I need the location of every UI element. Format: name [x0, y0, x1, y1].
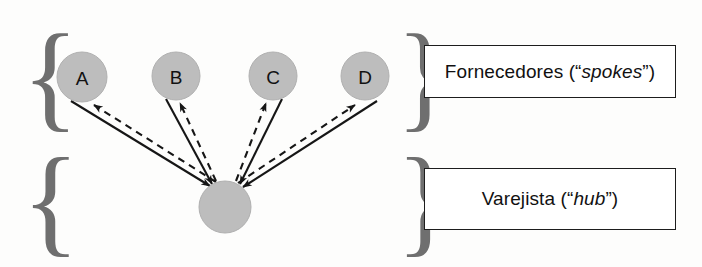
label-hub-italic: hub [573, 188, 605, 209]
node-c[interactable]: C [249, 52, 297, 100]
edge-hub-to-b [180, 103, 216, 181]
brace-left-spokes: { [22, 18, 79, 136]
node-c-label: C [266, 67, 280, 88]
node-hub[interactable] [199, 181, 251, 233]
label-spokes-text: Fornecedores (“spokes”) [445, 61, 655, 83]
label-hub-suffix: ”) [605, 188, 618, 209]
edge-group-c [236, 99, 282, 184]
node-d-label: D [358, 67, 372, 88]
node-d[interactable]: D [341, 52, 389, 100]
label-hub-prefix: Varejista (“ [482, 188, 574, 209]
label-box-spokes: Fornecedores (“spokes”) [424, 45, 676, 98]
label-spokes-prefix: Fornecedores (“ [445, 61, 582, 82]
node-b-label: B [170, 67, 183, 88]
node-b[interactable]: B [152, 52, 200, 100]
brace-left-hub: { [22, 141, 80, 261]
edge-c-to-hub [240, 99, 282, 184]
edge-group-b [166, 99, 216, 184]
diagram-canvas: A B C D { } { } Fornecedores (“spokes”) … [0, 0, 702, 267]
label-hub-text: Varejista (“hub”) [482, 188, 619, 210]
edge-d-to-hub [243, 101, 377, 187]
label-box-hub: Varejista (“hub”) [424, 168, 676, 230]
label-spokes-italic: spokes [582, 61, 643, 82]
edge-hub-to-d [238, 105, 355, 183]
label-spokes-suffix: ”) [642, 61, 655, 82]
edge-b-to-hub [166, 99, 212, 184]
node-hub-circle[interactable] [199, 181, 251, 233]
edge-group-a [71, 101, 216, 186]
